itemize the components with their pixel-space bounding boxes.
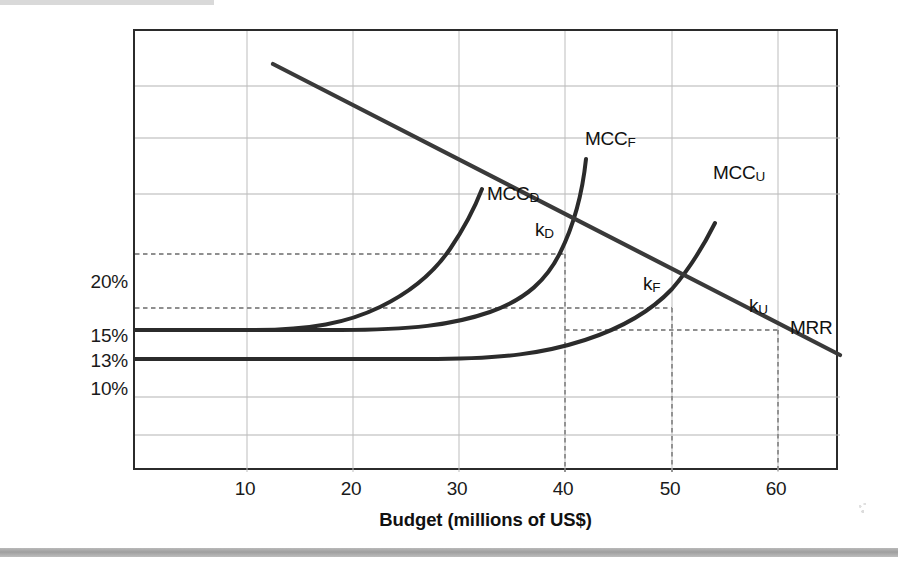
x-tick-label-60: 60 <box>751 478 801 500</box>
point-label-kd: kD <box>535 219 554 241</box>
curve-label-mcc-u-sub: U <box>755 169 765 184</box>
point-label-kf-text: k <box>643 273 652 294</box>
x-tick-label-40: 40 <box>538 478 588 500</box>
curve-label-mrr: MRR <box>790 317 832 339</box>
curve-label-mcc-u-text: MCC <box>713 162 755 183</box>
x-axis-title: Budget (millions of US$) <box>133 509 838 531</box>
point-label-ku-text: k <box>749 295 758 316</box>
point-label-ku: kU <box>749 295 768 317</box>
y-axis-tick-labels: 20% 15% 13% 10% <box>60 29 128 470</box>
point-label-kd-text: k <box>535 219 544 240</box>
x-axis-tick-labels: 10 20 30 40 50 60 <box>133 478 838 508</box>
plot-area: MCCD MCCF MCCU MRR kD kF kU <box>133 29 838 470</box>
y-tick-label-13: 13% <box>64 350 128 372</box>
y-tick-label-10: 10% <box>64 378 128 400</box>
curve-label-mcc-f: MCCF <box>585 128 636 150</box>
curve-label-mcc-d-sub: D <box>529 190 539 205</box>
x-tick-label-50: 50 <box>645 478 695 500</box>
x-tick-label-10: 10 <box>220 478 270 500</box>
curve-mcc-d <box>135 189 482 330</box>
point-label-ku-sub: U <box>758 302 768 317</box>
curve-label-mcc-f-text: MCC <box>585 128 627 149</box>
curve-mcc-u <box>135 223 715 359</box>
y-tick-label-20: 20% <box>64 271 128 293</box>
point-label-kf-sub: F <box>652 280 660 295</box>
scan-artifact-bottom-band <box>0 548 898 557</box>
curve-label-mcc-u: MCCU <box>713 162 765 184</box>
chart-figure: Marginal cost of capital and rate of ret… <box>0 0 898 548</box>
x-tick-label-30: 30 <box>432 478 482 500</box>
point-label-kd-sub: D <box>544 226 554 241</box>
point-label-kf: kF <box>643 273 660 295</box>
curve-label-mcc-f-sub: F <box>627 135 635 150</box>
y-tick-label-15: 15% <box>64 325 128 347</box>
curve-label-mcc-d: MCCD <box>487 183 539 205</box>
curves-layer <box>135 31 840 472</box>
curve-label-mcc-d-text: MCC <box>487 183 529 204</box>
scan-artifact-smudge <box>856 500 870 516</box>
x-tick-label-20: 20 <box>326 478 376 500</box>
